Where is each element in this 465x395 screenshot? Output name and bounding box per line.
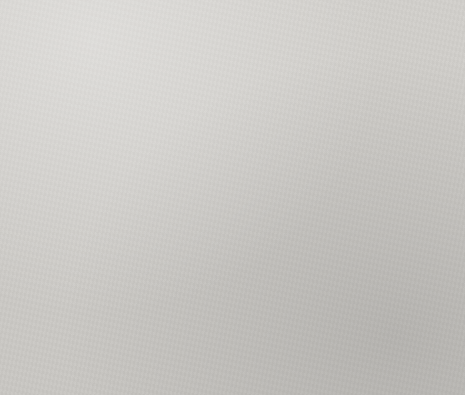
slice-label: 83155.7% [325,89,340,103]
pie-separator [77,228,78,287]
pie-separator [309,31,310,90]
legend-swatch-icon [379,67,383,71]
slice-label: 16511.1% [269,93,284,107]
legend-swatch-icon [379,35,383,39]
legend-item[interactable]: Twitter for iPad [379,58,425,63]
legend-swatch-icon [146,35,150,39]
legend-swatch-icon [146,59,150,63]
slice-label-outside: 45.71% [43,145,58,159]
legend-swatch-icon [146,264,150,268]
pie-wrap: 13050.4% 6625.6% 3915.1% 18 6.98% 51.94% [18,228,136,346]
chart-panel-jose-antonio-kast: Origin of messages of Jose Antonio Kast … [233,0,465,198]
legend-swatch-icon [379,248,383,252]
chart-subtitle: From 2017-09-15 17:00:00 to 2017-09-15 2… [233,17,465,25]
legend-item[interactable]: Twitter Lite [379,256,425,261]
slice-label-outside: 142.01% [250,330,265,344]
legend-swatch-icon [379,232,383,236]
slice-label: 39256.3% [324,288,339,302]
legend-item[interactable]: Twitter Lite [146,256,192,261]
legend-item[interactable]: Twitter Lite [379,66,425,71]
plot-area: 39256.3% 17425% 10414.9% 142.01% 121.72%… [233,226,465,392]
legend-swatch-icon [379,264,383,268]
slice-label-outside: 402.68% [270,146,285,160]
legend-swatch-icon [146,232,150,236]
legend-item[interactable]: Twitter for iPhone [379,240,425,245]
slice-label: 17425% [288,250,299,264]
legend-item[interactable]: Twitter Web Client [379,248,425,253]
slice-label-outside: 45.71% [19,127,34,141]
legend: Twitter for Android Twitter for iPhone T… [146,232,192,269]
legend: Twitter for Android Twitter for iPhone T… [379,232,425,269]
legend-item[interactable]: Twitter for iPhone [379,42,425,47]
legend-swatch-icon [379,43,383,47]
slice-label: 3915.1% [35,290,50,304]
plot-area: 3854.3% 2028.6% 45.71% 45.71% 45.71% Twi… [0,28,233,194]
chart-title-block: Origin of messages of Alejandro Guillier… [0,0,233,26]
chart-title-block: Origin of messages of Carolina Goic From… [0,198,233,224]
legend-swatch-icon [146,51,150,55]
legend-item[interactable]: Twitter Web Client [379,50,425,55]
pie-wrap: 3854.3% 2028.6% 45.71% 45.71% 45.71% [18,30,136,148]
legend-swatch-icon [146,256,150,260]
page-title: Origin of messages of Beatriz Sanchez [233,207,465,215]
slice-label-outside: 51.94% [45,348,60,362]
legend-swatch-icon [146,248,150,252]
legend-item[interactable]: Twitter for Android [379,34,425,39]
legend-item[interactable]: Top Ranking App User Cl. [146,66,209,71]
leader-line [293,135,299,145]
legend-swatch-icon [146,43,150,47]
chart-title-block: Origin of messages of Jose Antonio Kast … [233,0,465,26]
legend-swatch-icon [379,240,383,244]
legend-swatch-icon [379,256,383,260]
page-title: Origin of messages of Jose Antonio Kast [233,9,465,17]
slice-label-outside: 573.82% [245,131,260,145]
legend-item[interactable]: Twitter for Android [379,232,425,237]
chart-subtitle: From 2017-09-15 17:00:00 to 2017-09-15 2… [0,215,233,223]
leader-line [66,134,72,143]
plot-area: 13050.4% 6625.6% 3915.1% 18 6.98% 51.94%… [0,226,233,392]
page-title: Origin of messages of Carolina Goic [0,207,233,215]
leader-line [295,336,301,346]
legend-item[interactable]: Twitter for Android [146,232,192,237]
slice-label: 10414.9% [271,289,286,303]
pie-separator [309,228,310,287]
chart-panel-alejandro-guillier: Origin of messages of Alejandro Guillier… [0,0,233,198]
legend: Twitter for Android Twitter for iPhone T… [379,34,425,71]
chart-panel-beatriz-sanchez: Origin of messages of Beatriz Sanchez Fr… [233,198,465,395]
slice-label-outside: 45.71% [1,108,16,122]
legend-item[interactable]: Twitter Web Client [146,248,192,253]
pie-wrap: 83155.7% 39026.7% 16511.1% 573.82% 402.6… [251,30,369,148]
legend-swatch-icon [146,67,150,71]
legend-item[interactable]: Twitter Web Client [146,50,209,55]
chart-subtitle: From 2017-09-15 17:00:00 to 2017-09-15 2… [0,17,233,25]
legend-item[interactable]: dlvr [379,264,425,269]
chart-title-block: Origin of messages of Beatriz Sanchez Fr… [233,198,465,224]
legend-item[interactable]: Facebook [146,58,209,63]
pie-chart-grid: Origin of messages of Alejandro Guillier… [0,0,465,395]
slice-label: 3854.3% [89,89,104,103]
legend-swatch-icon [146,240,150,244]
chart-panel-carolina-goic: Origin of messages of Carolina Goic From… [0,198,233,395]
legend-swatch-icon [379,51,383,55]
chart-subtitle: From 2017-09-15 17:00:00 to 2017-09-15 2… [233,215,465,223]
plot-area: 83155.7% 39026.7% 16511.1% 573.82% 402.6… [233,28,465,194]
legend-item[interactable]: Twitter for iPhone [146,240,192,245]
legend-item[interactable]: Twitter for Android [146,34,209,39]
legend-item[interactable]: Twitter for iPad [146,264,192,269]
legend-swatch-icon [379,59,383,63]
slice-label: 13050.4% [93,288,108,302]
pie-separator [77,31,78,90]
slice-label-outside: 121.72% [274,347,289,361]
legend-item[interactable]: Twitter for iPhone [146,42,209,47]
pie-wrap: 39256.3% 17425% 10414.9% 142.01% 121.72% [251,228,369,346]
page-title: Origin of messages of Alejandro Guillier [0,9,233,17]
legend: Twitter for Android Twitter for iPhone T… [146,34,209,71]
